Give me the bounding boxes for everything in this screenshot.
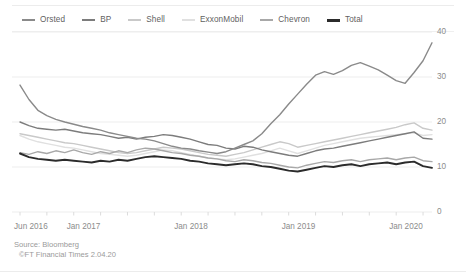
legend-swatch-icon <box>327 19 340 22</box>
y-axis-tick-label: 30 <box>437 72 446 81</box>
x-tick-marks <box>20 212 423 216</box>
legend-swatch-icon <box>182 19 195 21</box>
chart-container: OrstedBPShellExxonMobilChevronTotal 0102… <box>0 0 466 277</box>
copyright-text: ©FT Financial Times 2.04.20 <box>14 250 314 260</box>
y-axis-tick-label: 10 <box>437 162 446 171</box>
y-axis-tick-label: 20 <box>437 117 446 126</box>
x-axis-tick-label: Jan 2018 <box>174 222 208 231</box>
legend-swatch-icon <box>22 19 35 21</box>
legend-swatch-icon <box>82 19 95 21</box>
plot-area <box>0 24 466 220</box>
x-axis-tick-label: Jun 2016 <box>14 222 48 231</box>
source-text: Source: Bloomberg <box>14 240 314 250</box>
chart-footer: Source: Bloomberg ©FT Financial Times 2.… <box>14 240 314 260</box>
y-axis-tick-label: 40 <box>437 27 446 36</box>
x-axis-tick-label: Jan 2019 <box>282 222 316 231</box>
line-chart-svg <box>0 24 466 220</box>
x-axis-tick-label: Jan 2017 <box>67 222 101 231</box>
gridlines <box>12 32 432 212</box>
legend-swatch-icon <box>260 19 273 21</box>
y-axis-tick-label: 0 <box>437 207 442 216</box>
bottom-divider <box>0 271 466 272</box>
series-lines <box>20 43 432 172</box>
legend-swatch-icon <box>128 19 141 21</box>
x-axis-tick-label: Jan 2020 <box>389 222 423 231</box>
top-divider <box>12 5 454 6</box>
